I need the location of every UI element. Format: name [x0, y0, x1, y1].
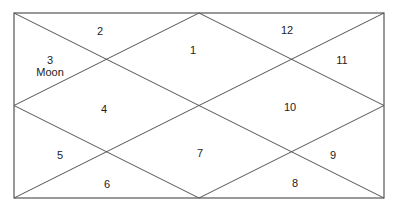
- house-4: 4: [101, 103, 107, 115]
- house-6: 6: [104, 178, 110, 190]
- house-1: 1: [190, 44, 196, 56]
- house-number: 4: [101, 103, 107, 115]
- house-number: 10: [284, 101, 296, 113]
- house-number: 12: [281, 24, 293, 36]
- house-5: 5: [57, 149, 63, 161]
- planet-label: Moon: [36, 66, 64, 78]
- house-3: 3 Moon: [36, 54, 64, 78]
- house-number: 7: [197, 147, 203, 159]
- house-2: 2: [97, 25, 103, 37]
- house-10: 10: [284, 101, 296, 113]
- house-8: 8: [292, 177, 298, 189]
- house-number: 11: [336, 54, 347, 66]
- house-number: 5: [57, 149, 63, 161]
- house-number: 3: [36, 54, 64, 66]
- house-number: 6: [104, 178, 110, 190]
- horoscope-chart: [0, 0, 398, 216]
- house-9: 9: [330, 149, 336, 161]
- house-number: 1: [190, 44, 196, 56]
- house-number: 9: [330, 149, 336, 161]
- house-11: 11: [336, 54, 347, 66]
- house-number: 8: [292, 177, 298, 189]
- house-12: 12: [281, 24, 293, 36]
- house-7: 7: [197, 147, 203, 159]
- house-number: 2: [97, 25, 103, 37]
